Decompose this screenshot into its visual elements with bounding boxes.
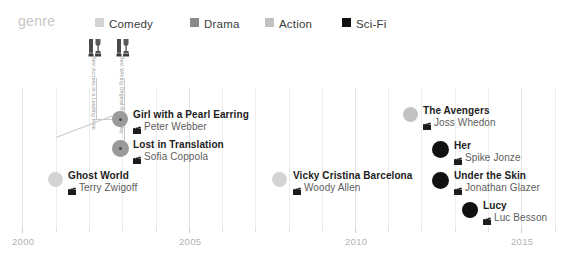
axis-tick-major <box>521 228 522 233</box>
film-title: Under the Skin <box>454 170 540 182</box>
clapperboard-icon <box>133 123 141 131</box>
film-label-group: The AvengersJoss Whedon <box>423 105 496 129</box>
clapperboard-icon <box>483 214 491 222</box>
film-genre-dot[interactable] <box>272 172 287 187</box>
film-title: Ghost World <box>68 170 137 182</box>
axis-tick-minor <box>322 228 323 232</box>
axis-tick-major <box>22 228 23 233</box>
axis-tick-minor <box>56 228 57 232</box>
film-genre-dot[interactable] <box>432 141 449 158</box>
axis-tick-label: 2005 <box>179 236 201 247</box>
axis-tick-minor <box>255 228 256 232</box>
axis-tick-minor <box>289 228 290 232</box>
clapperboard-icon <box>454 184 462 192</box>
clapperboard-icon <box>133 153 141 161</box>
timeline-chart: genre ComedyDramaActionSci-Fi Best Actre… <box>0 0 573 258</box>
axis-tick-major <box>189 228 190 233</box>
film-director-name: Terry Zwigoff <box>79 182 137 194</box>
axis-tick-minor <box>421 228 422 232</box>
film-director-name: Joss Whedon <box>434 117 496 129</box>
year-axis: 2000200520102015 <box>0 228 573 258</box>
film-title: Her <box>454 140 521 152</box>
film-director-name: Sofia Coppola <box>144 151 208 163</box>
axis-tick-major <box>355 228 356 233</box>
axis-tick-label: 2015 <box>511 236 533 247</box>
film-director-name: Woody Allen <box>304 182 361 194</box>
film-dot-center <box>119 147 122 150</box>
film-genre-dot[interactable] <box>432 172 449 189</box>
film-genre-dot[interactable] <box>462 202 478 218</box>
film-director-row: Terry Zwigoff <box>68 182 137 194</box>
clapperboard-icon <box>68 184 76 192</box>
axis-tick-minor <box>156 228 157 232</box>
film-title: Lucy <box>483 200 547 212</box>
film-director-row: Joss Whedon <box>423 117 496 129</box>
film-title: Girl with a Pearl Earring <box>133 109 249 121</box>
film-label-group: Ghost WorldTerry Zwigoff <box>68 170 137 194</box>
axis-tick-minor <box>388 228 389 232</box>
film-title: The Avengers <box>423 105 496 117</box>
clapperboard-icon <box>293 184 301 192</box>
film-label-group: Under the SkinJonathan Glazer <box>454 170 540 194</box>
axis-tick-minor <box>122 228 123 232</box>
film-label-group: Vicky Cristina BarcelonaWoody Allen <box>293 170 413 194</box>
axis-tick-label: 2010 <box>345 236 367 247</box>
film-label-group: HerSpike Jonze <box>454 140 521 164</box>
axis-tick-minor <box>455 228 456 232</box>
film-genre-dot[interactable] <box>48 172 63 187</box>
axis-tick-minor <box>222 228 223 232</box>
axis-tick-minor <box>555 228 556 232</box>
axis-tick-minor <box>89 228 90 232</box>
film-label-group: Girl with a Pearl EarringPeter Webber <box>133 109 249 133</box>
film-label-group: LucyLuc Besson <box>483 200 547 224</box>
film-dot-center <box>119 118 122 121</box>
film-title: Lost in Translation <box>133 139 224 151</box>
film-label-group: Lost in TranslationSofia Coppola <box>133 139 224 163</box>
film-entry[interactable]: LucyLuc Besson <box>0 0 573 30</box>
film-director-name: Spike Jonze <box>465 152 521 164</box>
clapperboard-icon <box>423 119 431 127</box>
film-director-row: Woody Allen <box>293 182 413 194</box>
film-director-name: Jonathan Glazer <box>465 182 540 194</box>
film-director-name: Luc Besson <box>494 212 547 224</box>
film-director-row: Jonathan Glazer <box>454 182 540 194</box>
film-title: Vicky Cristina Barcelona <box>293 170 413 182</box>
axis-tick-label: 2000 <box>12 236 34 247</box>
axis-tick-minor <box>488 228 489 232</box>
film-director-row: Spike Jonze <box>454 152 521 164</box>
film-director-row: Sofia Coppola <box>133 151 224 163</box>
film-director-name: Peter Webber <box>144 121 207 133</box>
film-genre-dot[interactable] <box>403 107 418 122</box>
film-director-row: Peter Webber <box>133 121 249 133</box>
clapperboard-icon <box>454 154 462 162</box>
film-director-row: Luc Besson <box>483 212 547 224</box>
